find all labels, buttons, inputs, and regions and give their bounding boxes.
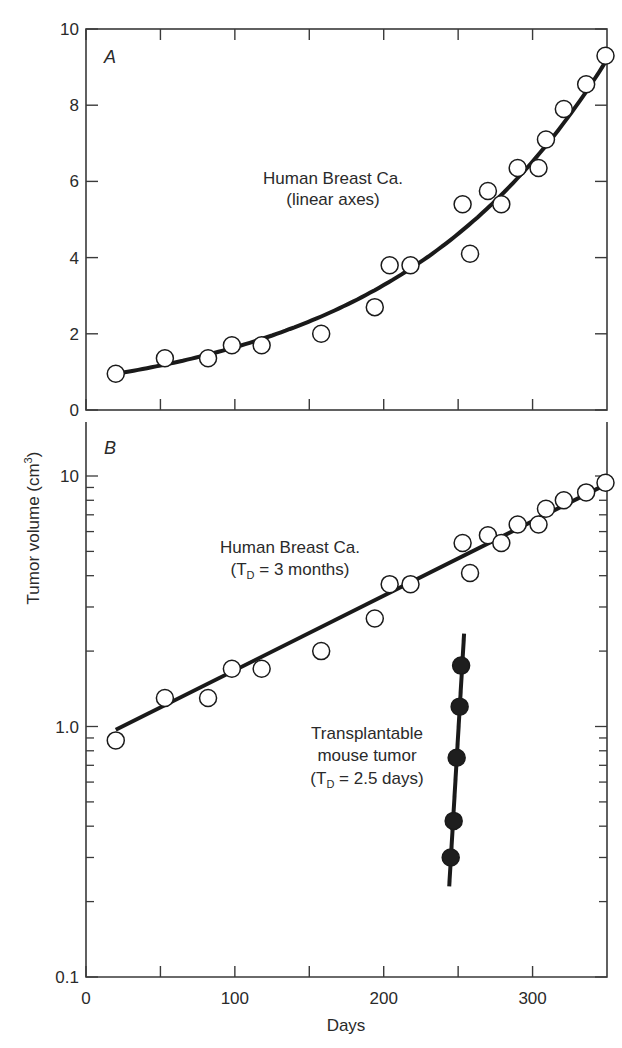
data-point-open <box>537 500 554 517</box>
panel-b-human-annotation-line2: (TD = 3 months) <box>231 560 350 581</box>
data-point-open <box>156 689 173 706</box>
panel-b: 0.11.010 0100200300 B Human Breast Ca. (… <box>55 422 614 1008</box>
y-tick-label: 0 <box>70 401 79 420</box>
data-point-open <box>156 350 173 367</box>
data-point-open <box>253 660 270 677</box>
x-tick-labels: 0100200300 <box>81 989 546 1008</box>
tumor-growth-figure: 0246810 A Human Breast Ca. (linear axes)… <box>0 0 622 1048</box>
data-point-open <box>223 660 240 677</box>
data-point-open <box>107 365 124 382</box>
x-tick-label: 100 <box>221 989 249 1008</box>
data-point-open <box>479 182 496 199</box>
data-point-open <box>381 576 398 593</box>
data-point-open <box>509 516 526 533</box>
y-tick-label: 0.1 <box>55 968 79 987</box>
data-point-open <box>493 535 510 552</box>
x-tick-label: 0 <box>81 989 90 1008</box>
y-tick-label: 1.0 <box>55 718 79 737</box>
y-axis-title: Tumor volume (cm3) <box>22 452 43 605</box>
data-point-open <box>493 196 510 213</box>
panel-a: 0246810 A Human Breast Ca. (linear axes) <box>60 20 614 420</box>
panel-a-data-points <box>107 47 614 382</box>
data-point-open <box>578 76 595 93</box>
data-point-open <box>200 350 217 367</box>
x-axis-title: Days <box>327 1016 366 1035</box>
data-point-open <box>555 101 572 118</box>
data-point-open <box>509 160 526 177</box>
data-point-open <box>200 689 217 706</box>
data-point-open <box>454 196 471 213</box>
x-tick-label: 300 <box>518 989 546 1008</box>
data-point-open <box>530 160 547 177</box>
data-point-open <box>597 474 614 491</box>
panel-a-annotation-line2: (linear axes) <box>286 190 380 209</box>
data-point-open <box>462 245 479 262</box>
panel-b-mouse-annotation-line3: (TD = 2.5 days) <box>310 769 423 790</box>
y-tick-label: 2 <box>70 325 79 344</box>
data-point-open <box>402 576 419 593</box>
data-point-filled <box>451 698 468 715</box>
data-point-open <box>107 732 124 749</box>
panel-a-y-tick-labels: 0246810 <box>60 20 79 420</box>
panel-b-mouse-annotation-line2: mouse tumor <box>317 746 417 765</box>
x-tick-label: 200 <box>370 989 398 1008</box>
y-tick-label: 10 <box>60 467 79 486</box>
panel-b-letter: B <box>104 438 116 458</box>
panel-b-y-tick-labels: 0.11.010 <box>55 467 79 987</box>
data-point-open <box>313 643 330 660</box>
panel-b-human-annotation-line1: Human Breast Ca. <box>220 538 360 557</box>
data-point-open <box>537 131 554 148</box>
data-point-filled <box>442 849 459 866</box>
data-point-open <box>381 257 398 274</box>
data-point-filled <box>453 657 470 674</box>
data-point-open <box>555 492 572 509</box>
y-tick-label: 6 <box>70 172 79 191</box>
data-point-open <box>223 337 240 354</box>
data-point-open <box>530 516 547 533</box>
y-tick-label: 8 <box>70 96 79 115</box>
data-point-filled <box>448 749 465 766</box>
data-point-open <box>366 299 383 316</box>
data-point-open <box>253 337 270 354</box>
data-point-open <box>454 535 471 552</box>
panel-a-annotation-line1: Human Breast Ca. <box>263 169 403 188</box>
data-point-open <box>578 484 595 501</box>
data-point-open <box>597 47 614 64</box>
panel-a-fit-curve <box>116 60 607 374</box>
y-tick-label: 4 <box>70 249 79 268</box>
y-tick-label: 10 <box>60 20 79 39</box>
panel-a-letter: A <box>103 47 116 67</box>
data-point-open <box>366 610 383 627</box>
data-point-open <box>313 325 330 342</box>
data-point-open <box>402 257 419 274</box>
data-point-open <box>462 564 479 581</box>
panel-b-data-points <box>107 474 614 866</box>
data-point-filled <box>445 812 462 829</box>
panel-b-mouse-annotation-line1: Transplantable <box>311 724 423 743</box>
